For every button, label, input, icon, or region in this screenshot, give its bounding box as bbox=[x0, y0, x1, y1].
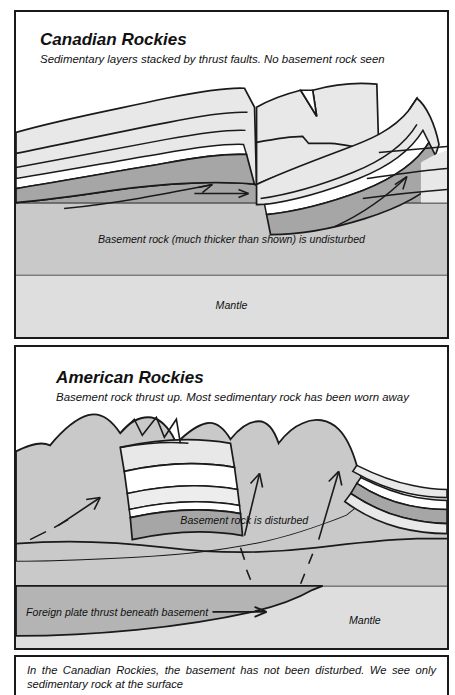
panel-title-canadian: Canadian Rockies bbox=[40, 30, 187, 49]
caption-line-2: sedimentary rock at the surface bbox=[27, 678, 183, 690]
figure-caption: In the Canadian Rockies, the basement ha… bbox=[27, 664, 436, 691]
figure-caption-box: In the Canadian Rockies, the basement ha… bbox=[14, 655, 449, 695]
label-foreign-plate: Foreign plate thrust beneath basement bbox=[26, 606, 209, 618]
label-basement-canadian: Basement rock (much thicker than shown) … bbox=[98, 233, 366, 245]
panel-canadian-rockies: Canadian Rockies Sedimentary layers stac… bbox=[14, 10, 449, 339]
caption-line-1: In the Canadian Rockies, the basement ha… bbox=[27, 664, 436, 676]
panel-title-american: American Rockies bbox=[55, 368, 204, 387]
panel-subtitle-american: Basement rock thrust up. Most sedimentar… bbox=[56, 391, 410, 403]
panel-american-rockies: American Rockies Basement rock thrust up… bbox=[14, 345, 449, 650]
canadian-rockies-cross-section: Canadian Rockies Sedimentary layers stac… bbox=[16, 12, 447, 337]
label-mantle-canadian: Mantle bbox=[216, 299, 248, 311]
american-rockies-cross-section: American Rockies Basement rock thrust up… bbox=[16, 347, 447, 648]
label-mantle-american: Mantle bbox=[349, 614, 381, 626]
label-basement-american: Basement rock is disturbed bbox=[180, 514, 309, 526]
panel-subtitle-canadian: Sedimentary layers stacked by thrust fau… bbox=[40, 53, 385, 65]
